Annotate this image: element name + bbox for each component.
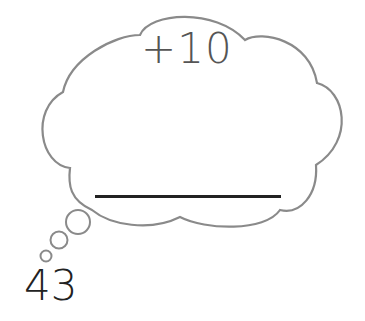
operation-label: +10 (141, 24, 227, 74)
answer-blank[interactable] (95, 195, 281, 198)
start-number: 43 (24, 262, 84, 310)
thought-circle-small (41, 251, 52, 262)
thought-circle-medium (51, 232, 68, 249)
thought-circle-large (66, 210, 90, 234)
